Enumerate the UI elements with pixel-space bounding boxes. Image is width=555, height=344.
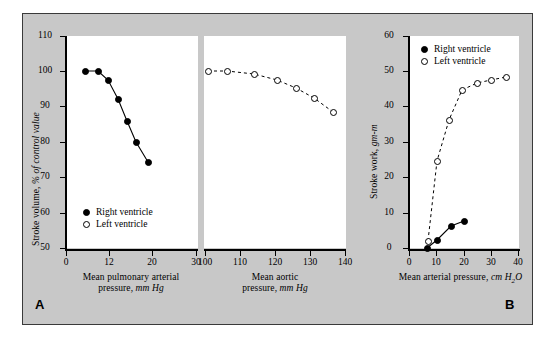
- figure-root: 110 100 90 80 70 60 50 Stroke volume, % …: [0, 0, 555, 344]
- panel-b-rv-point: [434, 237, 441, 244]
- panel-b-letter: B: [505, 297, 514, 312]
- panel-b-rv-point: [448, 223, 455, 230]
- panel-b-rv-point: [424, 245, 431, 252]
- panel-b-rv-series-lines: [23, 14, 534, 326]
- figure-plate: 110 100 90 80 70 60 50 Stroke volume, % …: [22, 13, 533, 325]
- panel-b-rv-point: [461, 218, 468, 225]
